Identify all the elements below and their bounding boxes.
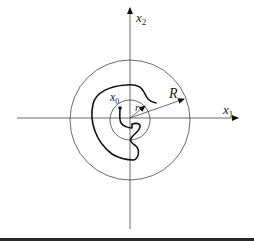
diagram-canvas: x2 x1 x0 r R <box>0 0 254 241</box>
x1-axis-label: x1 <box>222 102 233 119</box>
x0-point <box>118 106 122 110</box>
trajectory-curve <box>92 85 156 160</box>
x2-axis-label: x2 <box>135 10 146 27</box>
outer-radius-label: R <box>168 86 178 101</box>
x0-label: x0 <box>109 90 119 106</box>
inner-radius-label: r <box>135 101 140 113</box>
